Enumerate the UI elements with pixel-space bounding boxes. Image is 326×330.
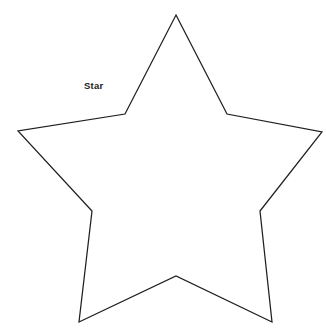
- star-outline: [18, 15, 322, 322]
- shape-label-star: Star: [84, 81, 103, 91]
- star-diagram: [0, 0, 326, 330]
- diagram-canvas: Star: [0, 0, 326, 330]
